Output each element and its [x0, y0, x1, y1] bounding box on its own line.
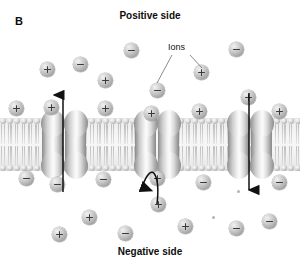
phospholipid	[21, 118, 27, 144]
phospholipid-tail	[284, 124, 285, 144]
phospholipid-tail	[216, 124, 217, 144]
phospholipid-tail	[278, 124, 279, 144]
phospholipid	[295, 118, 300, 144]
ion-charge-glyph	[56, 231, 63, 238]
phospholipid	[116, 145, 122, 171]
phospholipid	[103, 145, 109, 171]
phospholipid-head	[212, 165, 218, 171]
phospholipid-tail	[209, 124, 210, 144]
ion-charge-glyph	[233, 46, 240, 53]
phospholipid-tail	[93, 146, 94, 166]
phospholipid	[0, 118, 6, 144]
phospholipid	[274, 118, 280, 144]
phospholipid	[274, 145, 280, 171]
phospholipid-tail	[93, 124, 94, 144]
phospholipid-tail	[131, 124, 132, 144]
phospholipid-head	[96, 165, 102, 171]
phospholipid-tail	[127, 146, 128, 166]
phospholipid-tail	[200, 124, 201, 144]
right-channel	[228, 111, 272, 178]
phospholipid-tail	[284, 146, 285, 166]
phospholipid	[34, 118, 40, 144]
phospholipid	[34, 145, 40, 171]
phospholipid-tail	[4, 124, 5, 144]
phospholipid	[96, 145, 102, 171]
phospholipid-head	[0, 165, 6, 171]
phospholipid-tail	[282, 124, 283, 144]
phospholipid-tail	[188, 146, 189, 166]
cation-ion	[40, 62, 55, 77]
phospholipid	[27, 118, 33, 144]
phospholipid	[199, 118, 205, 144]
phospholipid-tail	[209, 146, 210, 166]
phospholipid	[21, 145, 27, 171]
phospholipid-tail	[24, 146, 25, 166]
phospholipid-tail	[207, 124, 208, 144]
ion-charge-glyph	[48, 104, 55, 111]
phospholipid	[185, 118, 191, 144]
phospholipid-tail	[1, 146, 2, 166]
phospholipid-tail	[17, 146, 18, 166]
phospholipid-tail	[111, 146, 112, 166]
phospholipid-tail	[195, 124, 196, 144]
phospholipid-head	[219, 165, 225, 171]
middle-channel	[135, 111, 179, 178]
ion-charge-glyph	[245, 94, 252, 101]
phospholipid-tail	[10, 146, 11, 166]
phospholipid-tail	[28, 124, 29, 144]
phospholipid-tail	[118, 124, 119, 144]
phospholipid-tail	[15, 124, 16, 144]
phospholipid	[7, 145, 13, 171]
phospholipid-head	[123, 165, 129, 171]
ion-charge-glyph	[86, 214, 93, 221]
phospholipid-tail	[104, 146, 105, 166]
cation-ion	[9, 101, 24, 116]
ion-charge-glyph	[77, 61, 84, 68]
channel-subunit	[135, 111, 156, 178]
phospholipid-head	[110, 165, 116, 171]
phospholipid-head	[89, 165, 95, 171]
phospholipid-tail	[207, 146, 208, 166]
anion-ion	[196, 175, 211, 190]
phospholipid	[89, 145, 95, 171]
phospholipid	[219, 145, 225, 171]
phospholipid	[14, 145, 20, 171]
phospholipid	[199, 145, 205, 171]
phospholipid-head	[199, 165, 205, 171]
anion-ion	[272, 175, 287, 190]
phospholipid	[185, 145, 191, 171]
cation-ion	[150, 171, 165, 186]
phospholipid-tail	[10, 124, 11, 144]
phospholipid	[206, 145, 212, 171]
phospholipid	[27, 145, 33, 171]
phospholipid-tail	[31, 146, 32, 166]
phospholipid-tail	[124, 124, 125, 144]
phospholipid-tail	[220, 146, 221, 166]
anion-ion	[229, 42, 244, 57]
cation-ion	[144, 106, 159, 121]
phospholipid	[219, 118, 225, 144]
ions-callout-label: Ions	[168, 42, 185, 52]
ions-leader-left	[157, 55, 172, 83]
phospholipid	[7, 118, 13, 144]
phospholipid-tail	[97, 124, 98, 144]
ion-charge-glyph	[198, 69, 205, 76]
phospholipid-tail	[186, 146, 187, 166]
anion-ion	[19, 171, 34, 186]
ion-charge-glyph	[196, 108, 203, 115]
anion-ion	[229, 221, 244, 236]
ion-charge-glyph	[148, 110, 155, 117]
phospholipid	[96, 118, 102, 144]
phospholipid-tail	[216, 146, 217, 166]
phospholipid-tail	[188, 124, 189, 144]
phospholipid-tail	[120, 146, 121, 166]
phospholipid-tail	[28, 146, 29, 166]
phospholipid-tail	[38, 146, 39, 166]
phospholipid-tail	[278, 146, 279, 166]
phospholipid-tail	[120, 124, 121, 144]
channel-subunit	[42, 111, 63, 178]
phospholipid	[110, 145, 116, 171]
ion-channel-figure: B Positive side Negative side Ions	[0, 0, 300, 277]
cation-ion	[178, 219, 193, 234]
phospholipid-head	[116, 165, 122, 171]
